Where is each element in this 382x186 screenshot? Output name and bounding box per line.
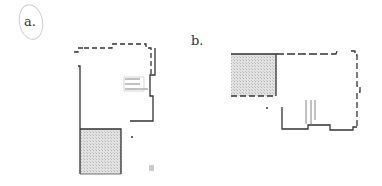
floor-plan-b: [231, 51, 360, 130]
floor-plans: [0, 0, 382, 186]
floor-plan-a: [74, 44, 155, 174]
